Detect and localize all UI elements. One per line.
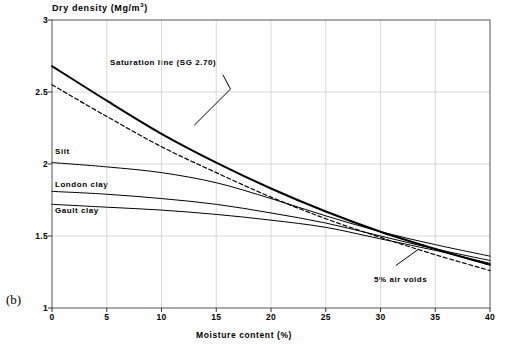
- leader-line-air-voids: [396, 249, 419, 266]
- plot-area: [0, 0, 507, 351]
- figure-panel-b: Dry density (Mg/m3) (b) 11.522.53 051015…: [0, 0, 507, 351]
- grid-lines: [52, 20, 490, 308]
- leader-line-saturation: [194, 75, 230, 125]
- axes-frame: [48, 20, 490, 312]
